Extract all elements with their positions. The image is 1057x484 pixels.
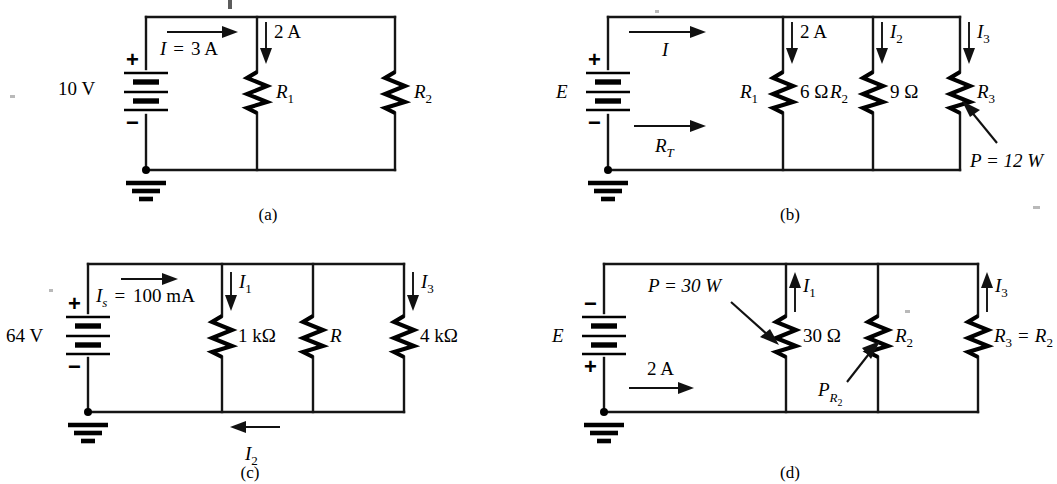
panel-c-source-voltage: 64 V <box>6 325 43 346</box>
panel-c-resistor-r <box>303 316 323 357</box>
panel-a-source-current-label: I=3 A <box>159 38 218 59</box>
panel-b-source-label: E <box>555 81 568 102</box>
panel-b-rt-arrow <box>634 120 706 132</box>
panel-c-branch1-current-arrow <box>225 272 237 311</box>
panel-a-source-voltage: 10 V <box>58 78 95 99</box>
panel-b-r2-value: 9 Ω <box>890 81 918 102</box>
panel-d-caption: (d) <box>780 463 800 482</box>
figure-sheet: + − 10 V R1 R2 I=3 A <box>0 0 1057 484</box>
panel-b-r1-value: 6 Ω <box>800 81 828 102</box>
panel-d-branch1-current-label: I1 <box>802 275 816 300</box>
panel-a-resistor-r2 <box>385 72 405 113</box>
panel-b-branch1-current-arrow <box>786 22 798 64</box>
panel-b-power-note: P = 12 W <box>969 150 1045 171</box>
panel-b-battery <box>586 73 630 110</box>
panel-d-source-current-arrow <box>629 382 694 394</box>
panel-d-plus-sign: + <box>584 354 597 379</box>
panel-c-branch2-current-arrow <box>230 421 280 433</box>
panel-d-power-r2-label: PR2 <box>817 379 843 408</box>
panel-d-power-note: P = 30 W <box>647 275 723 296</box>
panel-a-resistor-r1 <box>247 72 267 113</box>
panel-c-source-current-arrow <box>121 273 178 285</box>
panel-a-source-current-arrow <box>167 26 238 38</box>
panel-d-minus-sign: − <box>584 291 597 316</box>
circuit-figure-canvas: + − 10 V R1 R2 I=3 A <box>0 0 1057 484</box>
panel-d-power-r2-pointer <box>847 341 880 382</box>
panel-c-plus-sign: + <box>68 291 81 316</box>
panel-b-resistor-r1 <box>773 72 793 113</box>
panel-b-rt-label: RT <box>654 135 675 160</box>
panel-b-caption: (b) <box>780 205 800 224</box>
panel-d-branch1-current-arrow <box>789 272 801 312</box>
panel-b-r1-label: R1 <box>739 81 758 106</box>
panel-b-r3-label: R3 <box>976 81 995 106</box>
panel-b-minus-sign: − <box>588 110 601 135</box>
panel-a-branch1-current-arrow <box>260 22 272 64</box>
panel-b-branch2-current-arrow <box>876 22 888 64</box>
panel-d-resistor-r3 <box>968 316 988 357</box>
panel-d-r3-label: R3=R2 <box>993 325 1053 350</box>
panel-d-resistor-30ohm <box>776 316 796 357</box>
panel-a: + − 10 V R1 R2 I=3 A <box>58 17 432 224</box>
panel-c-battery <box>66 317 110 354</box>
panel-b-power-pointer <box>962 101 997 143</box>
panel-c: + − 64 V 1 kΩ R 4 kΩ Is=100 mA <box>6 264 458 482</box>
panel-b: + − E R1 6 Ω R2 9 Ω R3 <box>555 17 1045 224</box>
panel-c-r-label: R <box>329 325 342 346</box>
panel-d-battery <box>582 317 626 354</box>
panel-c-branch3-current-label: I3 <box>420 271 434 296</box>
panel-a-battery <box>124 73 168 110</box>
panel-c-caption: (c) <box>241 463 260 482</box>
panel-a-plus-sign: + <box>126 47 139 72</box>
panel-b-plus-sign: + <box>588 47 601 72</box>
panel-c-r1-value: 1 kΩ <box>238 325 276 346</box>
panel-c-resistor-1k <box>212 316 232 357</box>
panel-d-power-pointer <box>731 302 779 345</box>
panel-b-branch3-current-label: I3 <box>976 21 990 46</box>
panel-c-branch3-current-arrow <box>407 272 419 311</box>
panel-d-r1-value: 30 Ω <box>803 325 841 346</box>
panel-c-source-current-label: Is=100 mA <box>95 285 195 310</box>
panel-a-minus-sign: − <box>126 110 139 135</box>
panel-b-branch2-current-label: I2 <box>889 21 903 46</box>
panel-d-branch3-current-arrow <box>981 272 993 312</box>
panel-b-resistor-r2 <box>863 72 883 113</box>
panel-b-branch1-current-label: 2 A <box>800 21 827 42</box>
panel-b-source-current-arrow <box>629 26 706 38</box>
panel-d-branch3-current-label: I3 <box>994 275 1008 300</box>
panel-d-source-label: E <box>551 325 564 346</box>
panel-a-r2-label: R2 <box>413 81 432 106</box>
panel-b-r2-label: R2 <box>829 81 848 106</box>
panel-c-r3-value: 4 kΩ <box>420 325 458 346</box>
panel-b-branch3-current-arrow <box>963 22 975 64</box>
panel-d-source-current-label: 2 A <box>647 358 674 379</box>
panel-a-r1-label: R1 <box>275 81 294 106</box>
panel-c-minus-sign: − <box>68 354 81 379</box>
panel-c-resistor-4k <box>394 316 414 357</box>
panel-b-source-current-label: I <box>661 39 670 60</box>
panel-a-caption: (a) <box>259 205 278 224</box>
panel-d: − + E 30 Ω R2 R3=R2 P = 30 W <box>551 264 1053 482</box>
panel-c-branch1-current-label: I1 <box>238 271 252 296</box>
panel-d-r2-label: R2 <box>894 325 913 350</box>
panel-a-branch1-current-label: 2 A <box>274 21 301 42</box>
